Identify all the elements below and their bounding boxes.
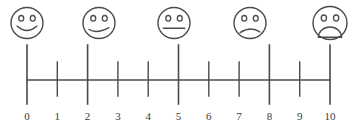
tick-label-text: 3 xyxy=(115,110,121,122)
axis-layer xyxy=(27,45,330,104)
scale-drawing: 012345678910 xyxy=(0,0,356,134)
tick-label-text: 7 xyxy=(236,110,242,122)
face-mouth xyxy=(240,29,260,33)
face-eye-right xyxy=(333,15,338,21)
face-eye-right xyxy=(177,15,182,21)
face-eye-right xyxy=(253,15,258,21)
tick-label-text: 1 xyxy=(55,110,61,122)
face-neutral xyxy=(158,8,190,39)
tick-label-text: 2 xyxy=(85,110,91,122)
tick-label-text: 4 xyxy=(145,110,151,122)
face-big-smile xyxy=(11,8,43,39)
tick-label-text: 10 xyxy=(325,110,337,122)
faces-pain-rating-scale: 012345678910 xyxy=(0,0,356,134)
tick-label-text: 6 xyxy=(206,110,212,122)
face-big-frown xyxy=(313,7,347,40)
face-outline xyxy=(234,8,266,39)
face-eye-left xyxy=(91,15,96,21)
tick-label-text: 9 xyxy=(297,110,303,122)
faces-layer xyxy=(11,7,347,40)
face-eye-left xyxy=(19,15,24,21)
face-mouth xyxy=(318,27,341,37)
face-eye-right xyxy=(30,15,35,21)
tick-label-text: 8 xyxy=(267,110,273,122)
face-mouth xyxy=(89,28,109,32)
face-eye-left xyxy=(242,15,247,21)
tick-labels-layer: 012345678910 xyxy=(24,110,336,122)
face-eye-right xyxy=(102,15,107,21)
face-mouth xyxy=(17,26,37,30)
face-slight-smile xyxy=(83,8,115,39)
face-outline xyxy=(11,8,43,39)
tick-label-text: 5 xyxy=(176,110,182,122)
face-eye-left xyxy=(166,15,171,21)
tick-label-text: 0 xyxy=(24,110,30,122)
face-slight-frown xyxy=(234,8,266,39)
face-outline xyxy=(158,8,190,39)
face-eye-left xyxy=(321,15,326,21)
face-outline xyxy=(313,7,347,40)
face-outline xyxy=(83,8,115,39)
